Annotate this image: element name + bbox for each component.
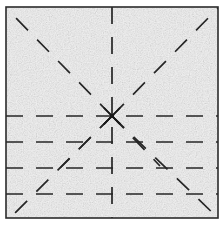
figure-container bbox=[0, 0, 223, 225]
crease-pattern-svg bbox=[0, 0, 223, 225]
center-point-marker bbox=[110, 114, 114, 118]
